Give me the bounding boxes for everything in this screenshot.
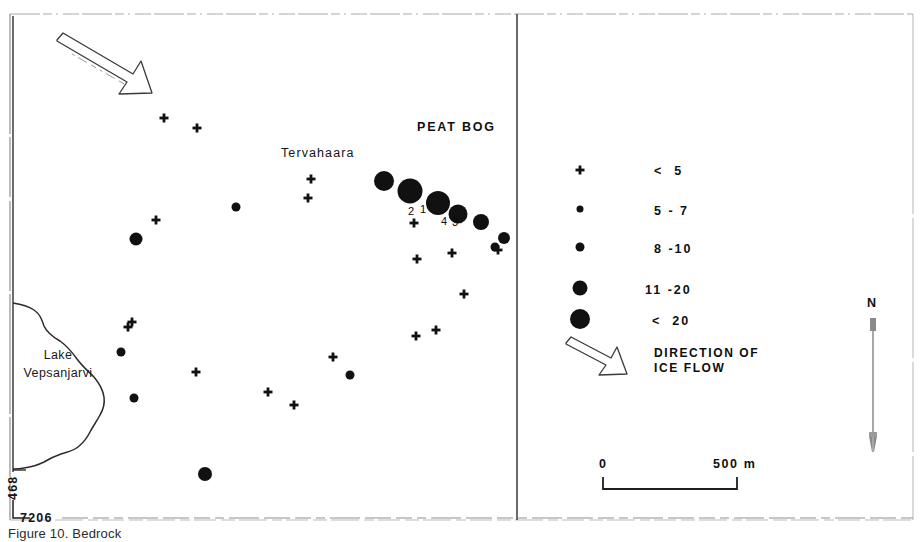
legend-label-0: < 5 — [654, 164, 683, 178]
figure-caption: Figure 10. Bedrock — [8, 526, 121, 541]
north-arrow-graphic — [869, 318, 877, 452]
site-number-4: 4 — [441, 215, 447, 227]
legend-symbol-cross-0 — [576, 166, 585, 175]
data-point-cross-15 — [290, 401, 299, 410]
data-point-cross-4 — [152, 216, 161, 225]
data-point-circle-28 — [374, 171, 394, 191]
data-point-circle-25 — [498, 232, 510, 244]
ice-flow-arrow-map — [57, 33, 152, 94]
legend-symbol-group — [570, 166, 590, 330]
ice-flow-arrow-legend — [566, 337, 627, 375]
data-point-cross-11 — [432, 326, 441, 335]
map-label-tervahaara: Tervahaara — [281, 146, 355, 160]
data-point-cross-14 — [264, 388, 273, 397]
site-number-2: 2 — [408, 205, 414, 217]
data-point-cross-0 — [160, 114, 169, 123]
data-point-circle-24 — [198, 467, 212, 481]
map-label-lake-line2: Vepsanjarvi — [8, 366, 108, 380]
coordinate-ticks — [13, 470, 913, 518]
ice-flow-caption-line2: ICE FLOW — [654, 361, 725, 376]
map-label-lake-line1: Lake — [18, 348, 98, 362]
data-point-cross-1 — [193, 124, 202, 133]
legend-label-4: < 20 — [652, 314, 690, 328]
coordinate-easting: 7206 — [20, 511, 53, 525]
data-point-circle-19 — [346, 371, 355, 380]
site-number-1: 1 — [420, 203, 426, 215]
data-point-circle-22 — [491, 243, 500, 252]
data-point-cross-10 — [412, 332, 421, 341]
legend-symbol-circle-2 — [576, 243, 585, 252]
data-point-circle-20 — [117, 348, 126, 357]
data-point-circle-29 — [398, 179, 423, 204]
data-point-circle-23 — [130, 233, 143, 246]
map-canvas — [0, 0, 923, 542]
data-point-cross-9 — [460, 290, 469, 299]
data-point-cross-5 — [410, 219, 419, 228]
data-point-circle-21 — [130, 394, 139, 403]
data-point-circle-18 — [232, 203, 241, 212]
legend-label-1: 5 - 7 — [654, 204, 689, 218]
data-point-cross-2 — [307, 175, 316, 184]
data-point-cross-6 — [413, 255, 422, 264]
legend-symbol-circle-4 — [570, 309, 590, 329]
figure-container: Tervahaara PEAT BOG Lake Vepsanjarvi 2 1… — [0, 0, 923, 542]
legend-label-3: 11 -20 — [645, 283, 692, 297]
figure-caption-clip: Figure 10. Bedrock — [0, 526, 923, 542]
lake-outline — [13, 303, 104, 469]
data-point-cross-7 — [448, 249, 457, 258]
legend-symbol-circle-3 — [573, 281, 588, 296]
legend-label-2: 8 -10 — [654, 242, 693, 256]
scale-start-label: 0 — [599, 457, 608, 471]
data-point-cross-3 — [304, 194, 313, 203]
legend-symbol-circle-1 — [577, 206, 584, 213]
ice-flow-caption-line1: DIRECTION OF — [654, 346, 759, 361]
data-point-circle-30 — [426, 191, 450, 215]
data-point-cross-13 — [329, 353, 338, 362]
site-number-3: 3 — [452, 216, 458, 228]
data-point-circle-26 — [473, 214, 489, 230]
scale-end-label: 500 m — [713, 457, 756, 471]
scale-bar-graphic — [603, 477, 737, 489]
data-point-cross-17 — [192, 368, 201, 377]
coordinate-northing: 468 — [6, 476, 20, 500]
data-point-group — [117, 114, 511, 482]
north-arrow-label: N — [867, 296, 876, 310]
map-label-peat-bog: PEAT BOG — [417, 120, 496, 134]
